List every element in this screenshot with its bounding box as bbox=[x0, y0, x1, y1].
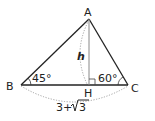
right-angle-marker bbox=[89, 79, 95, 85]
angle-arc-b bbox=[28, 78, 31, 85]
angle-label-c: 60° bbox=[98, 72, 118, 85]
base-dotted-arc bbox=[21, 86, 128, 102]
vertex-label-b: B bbox=[6, 80, 14, 93]
base-length-prefix: 3+ bbox=[56, 101, 72, 114]
altitude-label: h bbox=[77, 50, 85, 63]
vertex-label-c: C bbox=[131, 82, 139, 95]
vertex-label-a: A bbox=[84, 6, 92, 19]
angle-label-b: 45° bbox=[32, 72, 52, 85]
angle-arc-c bbox=[118, 77, 123, 85]
triangle-diagram: A B C H 45° 60° h 3+ 3 bbox=[0, 0, 155, 121]
vertex-label-h: H bbox=[84, 87, 92, 100]
base-length-radicand: 3 bbox=[79, 101, 86, 114]
